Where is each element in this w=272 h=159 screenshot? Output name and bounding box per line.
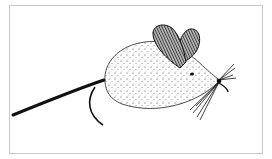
- eye: [190, 72, 194, 75]
- mouse-illustration: [0, 0, 272, 159]
- hind-leg: [90, 87, 103, 125]
